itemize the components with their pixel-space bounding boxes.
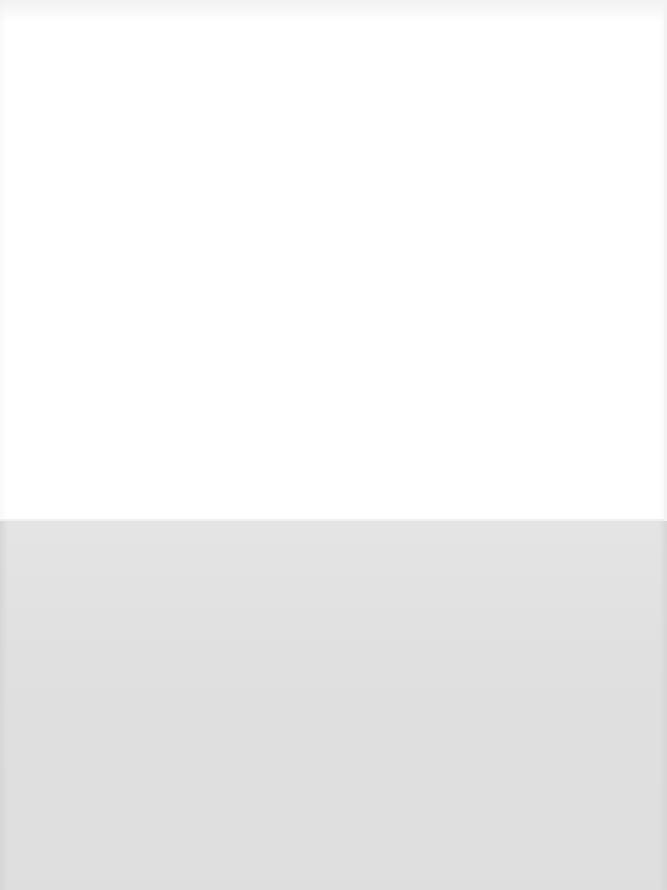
sheet-top-shading [0, 0, 664, 22]
gray-surface [0, 521, 667, 890]
surface-left-shading [0, 521, 8, 890]
scene [0, 0, 667, 890]
blank-sheet [0, 0, 664, 521]
surface-right-shading [659, 521, 667, 890]
